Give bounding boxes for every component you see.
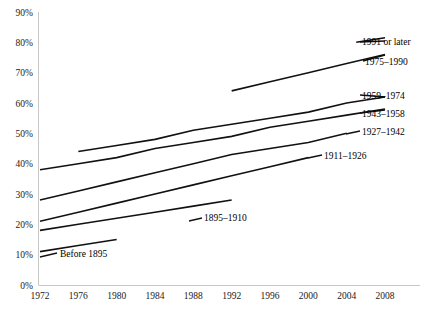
series-label-1943-1958: 1943–1958 (362, 109, 405, 119)
series-label-1991-or-later: 1991 or later (362, 37, 411, 47)
x-tick-label: 1972 (31, 291, 50, 301)
x-tick-label: 1992 (222, 291, 241, 301)
x-tick-label: 2004 (337, 291, 356, 301)
y-tick-label: 80% (16, 38, 34, 48)
y-tick-label: 30% (16, 190, 34, 200)
leader-line-1911-1926 (308, 155, 322, 158)
series-line-1975-1990 (232, 54, 385, 90)
series-label-before-1895: Before 1895 (60, 249, 107, 259)
series-label-1927-1942: 1927–1942 (362, 127, 405, 137)
x-tick-label: 2000 (299, 291, 318, 301)
y-tick-label: 10% (16, 250, 34, 260)
x-tick-label: 1988 (184, 291, 203, 301)
x-tick-label: 1984 (146, 291, 165, 301)
series-labels-group: Before 1895 1895–1910 1911–1926 1927–194… (60, 37, 411, 259)
x-axis-tick-labels: 1972 1976 1980 1984 1988 1992 1996 2000 … (31, 291, 395, 301)
series-line-1911-1926 (40, 158, 308, 222)
y-axis-tick-labels: 90% 80% 70% 60% 50% 40% 30% 20% 10% 0% (16, 8, 34, 291)
y-tick-label: 40% (16, 159, 34, 169)
x-tick-label: 2008 (376, 291, 395, 301)
x-tick-label: 1980 (107, 291, 126, 301)
leader-line-before-1895 (40, 253, 57, 257)
leader-line-1895-1910 (189, 218, 202, 221)
y-tick-label: 60% (16, 99, 34, 109)
y-tick-label: 70% (16, 68, 34, 78)
series-line-1943-1958 (40, 109, 385, 170)
leader-line-1927-1942 (346, 131, 360, 134)
series-label-1895-1910: 1895–1910 (204, 213, 247, 223)
series-label-1911-1926: 1911–1926 (324, 151, 367, 161)
y-tick-label: 0% (20, 281, 33, 291)
series-label-1959-1974: 1959–1974 (362, 91, 405, 101)
y-tick-label: 50% (16, 129, 34, 139)
x-tick-label: 1976 (69, 291, 88, 301)
chart-plot-area: 90% 80% 70% 60% 50% 40% 30% 20% 10% 0% 1… (0, 0, 435, 314)
series-label-1975-1990: 1975–1990 (365, 57, 408, 67)
series-line-1959-1974 (78, 97, 385, 152)
cohort-homeownership-line-chart: 90% 80% 70% 60% 50% 40% 30% 20% 10% 0% 1… (0, 0, 435, 314)
x-tick-label: 1996 (261, 291, 280, 301)
y-tick-label: 90% (16, 8, 34, 18)
y-tick-label: 20% (16, 220, 34, 230)
series-line-1927-1942 (40, 133, 347, 200)
